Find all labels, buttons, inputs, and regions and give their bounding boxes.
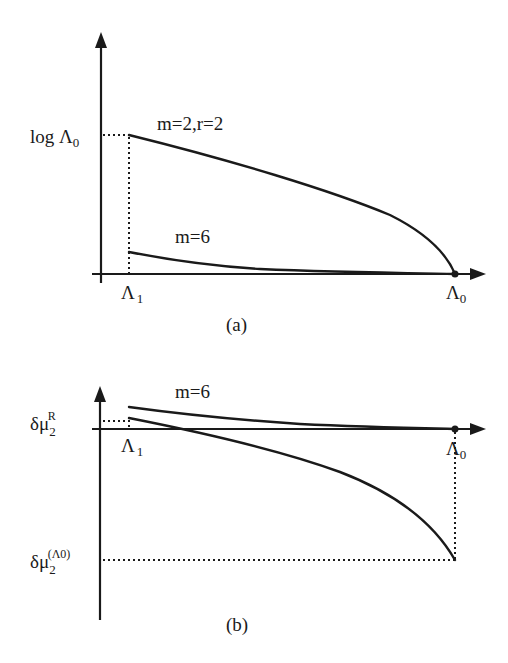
panel-b-curve-m6-label: m=6: [175, 381, 210, 402]
panel-a-x-axis-arrow-icon: [470, 268, 486, 280]
panel-a-y-label: log Λ0: [30, 126, 79, 150]
panel-a: log Λ0 m=2,r=2 m=6 Λ1 Λ0 (a): [30, 32, 486, 336]
panel-b-x-axis-arrow-icon: [470, 423, 486, 435]
panel-a-curve-m2-r2-label: m=2,r=2: [157, 113, 223, 134]
panel-a-x-tick-lambda0: Λ0: [446, 282, 466, 306]
panel-a-y-axis-arrow-icon: [95, 32, 107, 48]
panel-b-y-label-delta-mu-lambda0: δμ2(Λ0): [30, 547, 70, 577]
panel-a-lambda0-point: [452, 271, 459, 278]
panel-b-lambda0-point: [452, 426, 459, 433]
panel-b-curve-m6: [129, 407, 455, 429]
panel-b-x-tick-lambda0: Λ0: [446, 438, 466, 462]
panel-b-y-axis-arrow-icon: [94, 386, 106, 402]
figure-canvas: log Λ0 m=2,r=2 m=6 Λ1 Λ0 (a) m=6: [0, 0, 508, 663]
panel-b-y-label-delta-mu-r: δμ2R: [30, 409, 56, 439]
panel-b-curve-lower: [129, 418, 455, 560]
panel-a-caption: (a): [226, 314, 247, 336]
panel-b-x-tick-lambda1: Λ1: [121, 435, 143, 459]
panel-b: m=6 δμ2R δμ2(Λ0) Λ1 Λ0 (b): [30, 381, 486, 636]
panel-a-curve-m6-label: m=6: [175, 226, 210, 247]
panel-a-x-tick-lambda1: Λ1: [121, 282, 143, 306]
panel-b-caption: (b): [226, 614, 248, 636]
panel-a-curve-m2-r2: [129, 135, 455, 274]
panel-a-curve-m6: [129, 252, 455, 274]
